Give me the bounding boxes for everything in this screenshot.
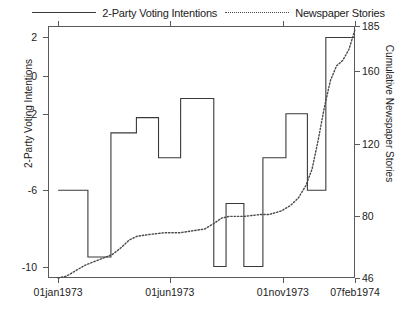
y-axis-right-tick: [355, 144, 360, 145]
solid-line-key-icon: [32, 8, 96, 18]
x-axis-tick: [355, 21, 356, 26]
plot-area: [48, 26, 355, 278]
y-axis-right-tick-label: 160: [362, 65, 380, 77]
x-axis-tick: [58, 278, 59, 283]
x-axis-tick: [170, 21, 171, 26]
series-path: [58, 30, 355, 278]
y-axis-left-tick-label: 0: [0, 70, 37, 82]
x-axis-tick-label: 07feb1974: [330, 286, 380, 298]
y-axis-right-title: Cumulative Newspaper Stories: [384, 24, 395, 204]
y-axis-right-tick: [355, 26, 360, 27]
x-axis-tick: [170, 278, 171, 283]
y-axis-right-tick: [355, 216, 360, 217]
y-axis-right-tick-label: 120: [362, 138, 380, 150]
series-lines: [48, 26, 355, 278]
y-axis-left-tick: [43, 114, 48, 115]
legend-label-voting-intentions: 2-Party Voting Intentions: [102, 7, 217, 19]
series-path: [58, 37, 355, 266]
x-axis-tick: [283, 21, 284, 26]
legend-entry-newspaper-stories: Newspaper Stories: [225, 7, 385, 19]
y-axis-left-tick: [43, 37, 48, 38]
x-axis-tick: [58, 21, 59, 26]
y-axis-left-tick-label: -6: [0, 184, 37, 196]
y-axis-left-tick-label: -10: [0, 261, 37, 273]
x-axis-tick: [283, 278, 284, 283]
y-axis-right-tick-label: 80: [362, 210, 374, 222]
legend-label-newspaper-stories: Newspaper Stories: [295, 7, 385, 19]
x-axis-tick-label: 01jun1973: [145, 286, 194, 298]
dotted-line-key-icon: [225, 8, 289, 18]
legend-entry-voting-intentions: 2-Party Voting Intentions: [32, 7, 217, 19]
y-axis-left-tick-label: 2: [0, 31, 37, 43]
y-axis-left-tick-label: -2: [0, 108, 37, 120]
x-axis-tick: [355, 278, 356, 283]
x-axis-tick-label: 01nov1973: [257, 286, 309, 298]
x-axis-tick-label: 01jan1973: [34, 286, 83, 298]
y-axis-left-tick: [43, 190, 48, 191]
chart-container: 2-Party Voting Intentions Newspaper Stor…: [0, 0, 417, 312]
y-axis-left-tick: [43, 267, 48, 268]
y-axis-right-tick-label: 46: [362, 272, 374, 284]
y-axis-right-tick-label: 185: [362, 20, 380, 32]
y-axis-right-tick: [355, 71, 360, 72]
y-axis-left-tick: [43, 76, 48, 77]
